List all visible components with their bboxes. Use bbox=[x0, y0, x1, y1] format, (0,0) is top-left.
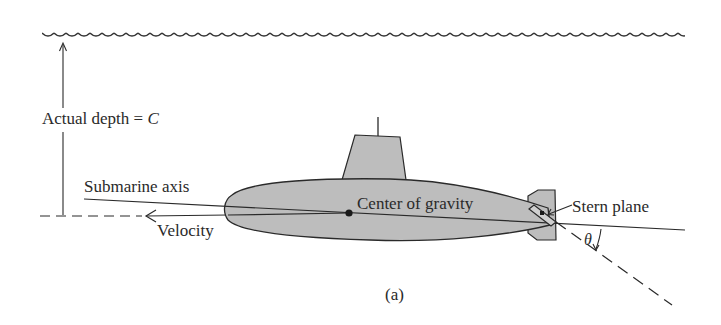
velocity-label: Velocity bbox=[157, 222, 214, 239]
water-surface bbox=[42, 30, 685, 39]
submarine-depth-diagram: Actual depth = C Submarine axis Velocity… bbox=[0, 0, 721, 325]
theta-label: θ bbox=[584, 232, 592, 248]
depth-label-text: Actual depth = bbox=[42, 109, 147, 128]
diagram-canvas bbox=[0, 0, 721, 325]
center-of-gravity-dot bbox=[345, 209, 352, 216]
stern-plane-deflection-line bbox=[556, 222, 672, 305]
stern-plane-label: Stern plane bbox=[572, 198, 649, 215]
conning-tower bbox=[342, 117, 406, 180]
center-of-gravity-label: Center of gravity bbox=[357, 195, 473, 212]
theta-arrow bbox=[593, 229, 601, 250]
depth-label: Actual depth = C bbox=[42, 110, 159, 127]
depth-arrow bbox=[60, 43, 67, 215]
figure-caption: (a) bbox=[385, 286, 404, 303]
depth-variable: C bbox=[147, 109, 158, 128]
submarine-axis-label: Submarine axis bbox=[84, 178, 189, 195]
